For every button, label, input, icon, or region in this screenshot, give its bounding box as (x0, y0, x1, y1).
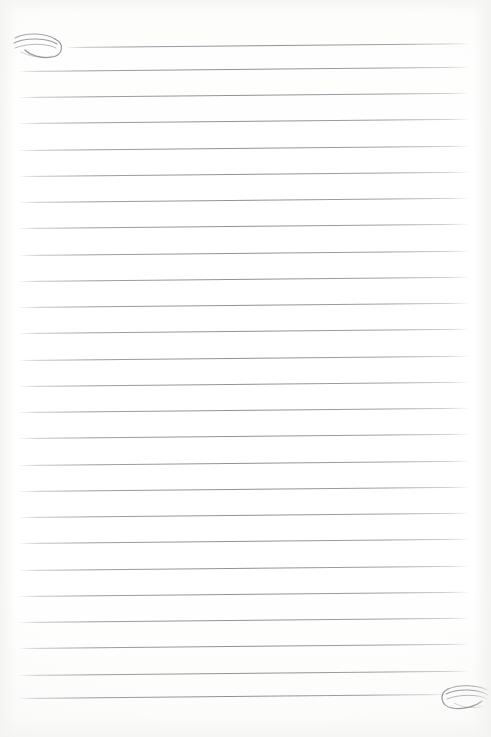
notebook-page (0, 0, 491, 737)
writing-area[interactable] (0, 0, 491, 737)
